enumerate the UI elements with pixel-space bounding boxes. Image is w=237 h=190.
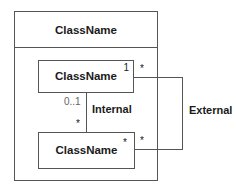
inner-class-box-upper: ClassName 1 (38, 60, 134, 93)
upper-corner-multiplicity: 1 (123, 62, 129, 73)
external-line-vertical (182, 77, 183, 150)
lower-corner-multiplicity: * (123, 137, 127, 148)
internal-association-line (86, 93, 87, 132)
internal-target-multiplicity: * (76, 118, 80, 129)
external-source-multiplicity: * (140, 63, 144, 74)
inner-class-name-lower: ClassName (39, 144, 134, 156)
internal-source-multiplicity: 0..1 (64, 96, 81, 107)
external-target-multiplicity: * (140, 135, 144, 146)
inner-class-box-lower: ClassName * (38, 132, 135, 169)
outer-class-divider (14, 47, 158, 48)
inner-class-name-upper: ClassName (39, 70, 133, 82)
external-line-bottom (135, 149, 183, 150)
external-association-label: External (189, 104, 232, 116)
internal-association-label: Internal (92, 103, 132, 115)
external-line-top (134, 77, 183, 78)
outer-class-name: ClassName (15, 24, 157, 36)
